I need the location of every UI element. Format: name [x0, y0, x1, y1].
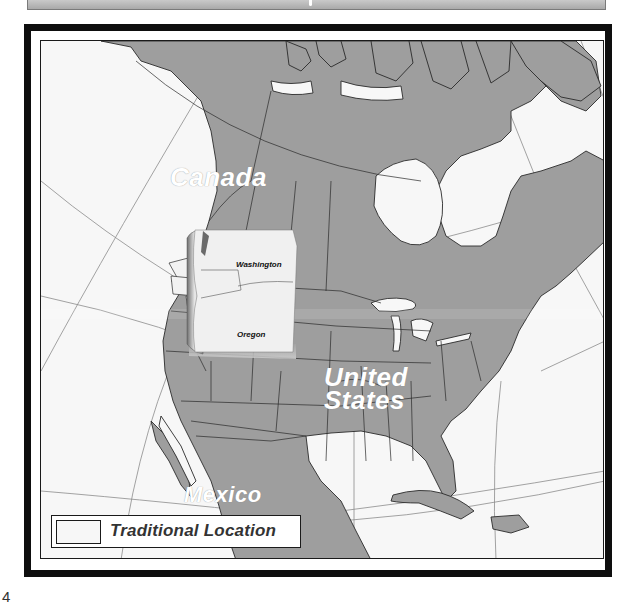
inset-label-oregon: Oregon — [237, 330, 265, 339]
page-number: 4 — [2, 588, 10, 605]
legend-label: Traditional Location — [110, 521, 276, 541]
landmass — [101, 41, 604, 559]
title-bar-notch — [309, 0, 312, 6]
inset-washington-oregon: Washington Oregon — [181, 226, 301, 361]
map-legend: Traditional Location — [51, 515, 301, 548]
inset-map — [181, 226, 301, 361]
legend-swatch-traditional-location — [56, 520, 101, 544]
country-label-states: States — [324, 389, 405, 411]
north-america-map — [41, 41, 604, 559]
map-area: Canada United States Mexico — [40, 40, 604, 559]
sheen-band — [41, 309, 604, 319]
country-label-canada: Canada — [170, 166, 267, 188]
country-label-mexico: Mexico — [184, 484, 262, 506]
inset-label-washington: Washington — [236, 260, 282, 269]
title-bar — [27, 0, 606, 10]
